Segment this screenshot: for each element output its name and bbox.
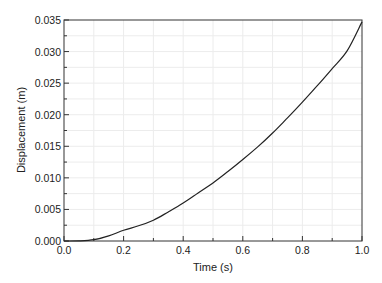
y-tick-labels: 0.0000.0050.0100.0150.0200.0250.0300.035 [35,14,61,247]
x-axis-label: Time (s) [193,261,233,273]
y-tick-label: 0.030 [35,46,61,58]
x-tick-labels: 0.00.20.40.60.81.0 [57,244,370,256]
y-tick-label: 0.025 [35,77,61,89]
y-tick-label: 0.005 [35,203,61,215]
displacement-chart: 0.00.20.40.60.81.0 0.0000.0050.0100.0150… [0,0,382,283]
x-tick-label: 0.4 [176,244,191,256]
x-tick-label: 1.0 [355,244,370,256]
x-tick-label: 0.6 [235,244,250,256]
y-axis-label: Displacement (m) [15,87,27,173]
y-tick-label: 0.010 [35,172,61,184]
x-tick-label: 0.8 [295,244,310,256]
grid-lines [64,20,362,241]
y-tick-label: 0.020 [35,109,61,121]
y-tick-label: 0.035 [35,14,61,26]
y-tick-label: 0.015 [35,140,61,152]
y-tick-label: 0.000 [35,235,61,247]
x-tick-label: 0.2 [116,244,131,256]
